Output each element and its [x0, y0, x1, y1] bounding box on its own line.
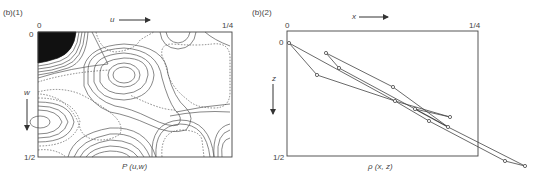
panel2-frame — [287, 31, 478, 156]
structure-polyline — [289, 43, 525, 166]
figure-canvas — [0, 0, 538, 183]
contour-map — [30, 32, 230, 157]
